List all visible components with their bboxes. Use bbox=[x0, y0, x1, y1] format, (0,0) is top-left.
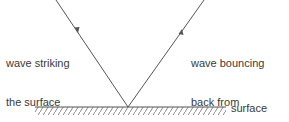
reflected-label-line: wave bouncing bbox=[191, 57, 264, 70]
incident-label-line: the surface bbox=[6, 96, 70, 109]
incident-label-line: wave striking bbox=[6, 57, 70, 70]
surface-label: surface bbox=[231, 102, 267, 115]
incident-label: wave striking the surface bbox=[6, 31, 70, 122]
reflection-diagram: wave striking the surface wave bouncing … bbox=[0, 0, 289, 122]
